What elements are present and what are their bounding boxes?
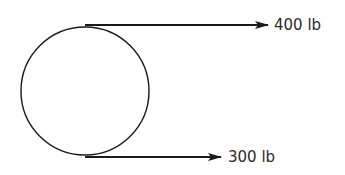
force-label-300lb: 300 lb bbox=[228, 150, 275, 165]
force-label-400lb: 400 lb bbox=[274, 18, 321, 33]
disk-body bbox=[21, 27, 149, 155]
